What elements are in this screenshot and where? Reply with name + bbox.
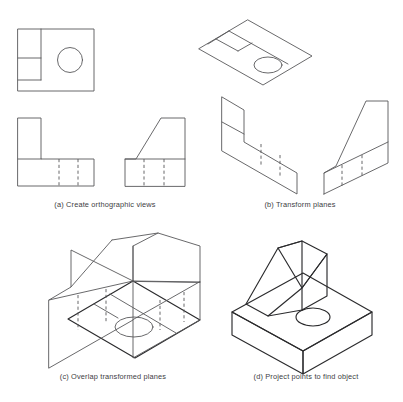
- front-plane-overlap-edge: [49, 281, 133, 300]
- fin-right-face: [302, 254, 327, 310]
- panel-c-caption: (c) Overlap transformed planes: [60, 372, 167, 381]
- panel-a-orthographic-views: (a) Create orthographic views: [18, 29, 185, 209]
- front-view: [18, 118, 94, 186]
- front-plane-base-top-edge: [222, 122, 244, 134]
- panel-d-finished-object: (d) Project points to find object: [232, 241, 372, 381]
- top-plane-hole-ellipse: [254, 57, 282, 73]
- side-view: [125, 118, 185, 186]
- overlap-front-plane: [49, 250, 133, 368]
- top-plane-notch-edge-a: [208, 31, 229, 44]
- top-plane-notch-edge-b: [238, 43, 252, 51]
- horizontal-plane-divider-short: [94, 304, 118, 318]
- side-view-outline: [125, 118, 185, 186]
- panel-b-transform-planes: (b) Transform planes: [199, 20, 388, 209]
- side-plane-isometric: [324, 101, 388, 194]
- side-plane-overlap-upper: [133, 233, 200, 282]
- top-view-hole-circle: [58, 48, 83, 73]
- front-view-outline: [18, 118, 94, 186]
- technical-drawing-figure: (a) Create orthographic views: [0, 0, 403, 402]
- overlap-side-plane: [133, 233, 200, 358]
- panel-a-caption: (a) Create orthographic views: [54, 200, 155, 209]
- panel-d-caption: (d) Project points to find object: [254, 372, 359, 381]
- object-inclined-fin: [246, 241, 327, 316]
- side-plane-overlap-lower: [133, 282, 200, 358]
- front-plane-overlap-outline: [49, 250, 133, 368]
- figure-container: (a) Create orthographic views: [0, 0, 403, 402]
- front-plane-isometric: [222, 97, 297, 194]
- top-plane-divider-short: [216, 39, 238, 51]
- top-plane-outline: [199, 20, 312, 85]
- overlap-inclined-fin: [71, 233, 158, 287]
- front-plane-outline: [222, 97, 297, 194]
- base-right-face: [303, 312, 372, 374]
- side-plane-base-top-edge: [324, 142, 388, 173]
- side-plane-overlap-edge: [133, 281, 200, 282]
- top-view: [18, 29, 94, 91]
- panel-c-overlap-planes: (c) Overlap transformed planes: [49, 233, 200, 381]
- base-left-face: [232, 312, 303, 374]
- top-plane-isometric: [199, 20, 312, 85]
- side-plane-outline: [324, 101, 388, 194]
- panel-b-caption: (b) Transform planes: [264, 200, 335, 209]
- fin-incline-edge-left: [71, 240, 112, 287]
